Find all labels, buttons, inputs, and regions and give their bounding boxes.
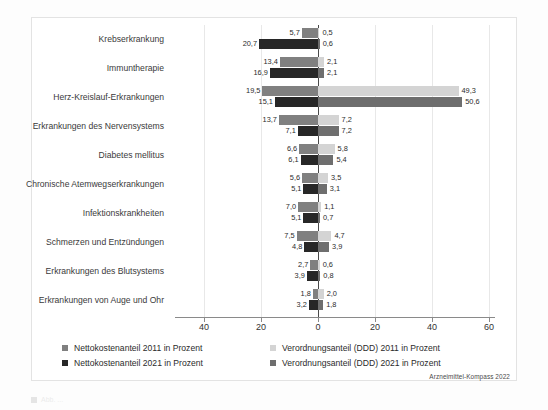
- value-label-right-2021: 7,2: [342, 126, 352, 136]
- bar-right-2011: [318, 57, 324, 67]
- bar-left-2021: [303, 213, 318, 223]
- chart-row: Chronische Atemwegserkrankungen5,65,13,5…: [175, 170, 495, 199]
- axis-tick-label: 40: [427, 322, 437, 332]
- legend-swatch-icon: [62, 345, 68, 351]
- bar-right-2021: [318, 242, 329, 252]
- value-label-left-2021: 5,1: [291, 184, 301, 194]
- value-label-left-2011: 5,6: [290, 173, 300, 183]
- value-label-right-2011: 3,5: [331, 173, 341, 183]
- bar-right-2011: [318, 144, 335, 154]
- bar-left-2021: [270, 68, 318, 78]
- value-label-right-2021: 50,6: [465, 97, 479, 107]
- chart-row: Erkrankungen des Blutsystems2,73,90,60,8: [175, 257, 495, 286]
- value-label-right-2011: 49,3: [462, 86, 476, 96]
- value-label-left-2021: 7,1: [285, 126, 295, 136]
- value-label-right-2011: 7,2: [342, 115, 352, 125]
- source-note: Arzneimittel-Kompass 2022: [429, 373, 510, 380]
- value-label-right-2021: 5,4: [336, 155, 346, 165]
- value-label-right-2021: 0,6: [323, 39, 333, 49]
- axis-tick-label: 20: [256, 322, 266, 332]
- value-label-left-2011: 7,0: [286, 202, 296, 212]
- value-label-right-2011: 4,7: [334, 231, 344, 241]
- value-label-left-2011: 5,7: [289, 28, 299, 38]
- chart-page: Krebserkrankung5,720,70,50,6Immuntherapi…: [0, 0, 548, 410]
- legend-label: Nettokostenanteil 2021 in Prozent: [74, 358, 203, 368]
- value-label-left-2011: 19,5: [246, 86, 260, 96]
- bar-left-2011: [302, 173, 318, 183]
- legend-label: Nettokostenanteil 2011 in Prozent: [74, 343, 202, 353]
- legend-column-right: Verordnungsanteil (DDD) 2011 in ProzentV…: [270, 340, 441, 370]
- bar-left-2011: [279, 115, 318, 125]
- value-label-left-2021: 3,9: [295, 271, 305, 281]
- legend-item[interactable]: Verordnungsanteil (DDD) 2011 in Prozent: [270, 340, 441, 355]
- bar-left-2011: [302, 28, 318, 38]
- value-label-left-2021: 5,1: [291, 213, 301, 223]
- bar-left-2011: [297, 231, 318, 241]
- category-label: Chronische Atemwegserkrankungen: [0, 170, 164, 199]
- legend-swatch-icon: [270, 345, 276, 351]
- bar-right-2021: [318, 155, 333, 165]
- bar-right-2011: [318, 28, 319, 38]
- chart-row: Erkrankungen des Nervensystems13,77,17,2…: [175, 112, 495, 141]
- value-label-right-2021: 0,8: [323, 271, 333, 281]
- axis-tick-label: 0: [315, 322, 320, 332]
- bar-right-2021: [318, 68, 324, 78]
- axis-tick-label: 20: [370, 322, 380, 332]
- bar-left-2021: [307, 271, 318, 281]
- value-label-left-2011: 13,4: [263, 57, 277, 67]
- bar-right-2011: [318, 260, 320, 270]
- bar-right-2011: [318, 231, 331, 241]
- legend-swatch-icon: [62, 360, 68, 366]
- value-label-left-2011: 1,8: [301, 289, 311, 299]
- axis-tick-label: 60: [484, 322, 494, 332]
- bar-right-2021: [318, 39, 320, 49]
- value-label-right-2021: 1,8: [326, 300, 336, 310]
- bar-right-2021: [318, 184, 327, 194]
- value-label-right-2011: 1,1: [324, 202, 334, 212]
- chart-row: Krebserkrankung5,720,70,50,6: [175, 25, 495, 54]
- value-label-left-2021: 20,7: [243, 39, 257, 49]
- legend-item[interactable]: Verordnungsanteil (DDD) 2021 in Prozent: [270, 355, 441, 370]
- value-label-right-2011: 2,1: [327, 57, 337, 67]
- category-label: Herz-Kreislauf-Erkrankungen: [0, 83, 164, 112]
- bar-left-2021: [309, 300, 318, 310]
- category-label: Schmerzen und Entzündungen: [0, 228, 164, 257]
- value-label-left-2021: 16,9: [253, 68, 267, 78]
- bar-left-2021: [259, 39, 318, 49]
- bar-right-2011: [318, 86, 459, 96]
- legend-swatch-icon: [270, 360, 276, 366]
- legend-column-left: Nettokostenanteil 2011 in ProzentNettoko…: [62, 340, 203, 370]
- value-label-left-2021: 4,8: [292, 242, 302, 252]
- category-label: Diabetes mellitus: [0, 141, 164, 170]
- caption-strip: Abb. ...: [31, 396, 151, 404]
- bar-rows: Krebserkrankung5,720,70,50,6Immuntherapi…: [175, 25, 495, 315]
- bar-right-2021: [318, 300, 323, 310]
- axis-tick-label: 40: [199, 322, 209, 332]
- bar-right-2021: [318, 213, 320, 223]
- legend-item[interactable]: Nettokostenanteil 2011 in Prozent: [62, 340, 203, 355]
- value-label-left-2011: 13,7: [263, 115, 277, 125]
- bar-left-2021: [304, 242, 318, 252]
- legend-item[interactable]: Nettokostenanteil 2021 in Prozent: [62, 355, 203, 370]
- bar-right-2011: [318, 115, 339, 125]
- category-label: Immuntherapie: [0, 54, 164, 83]
- bar-right-2011: [318, 289, 324, 299]
- category-label: Infektionskrankheiten: [0, 199, 164, 228]
- plot-area: Krebserkrankung5,720,70,50,6Immuntherapi…: [175, 25, 495, 315]
- value-label-right-2011: 5,8: [338, 144, 348, 154]
- chart-row: Diabetes mellitus6,66,15,85,4: [175, 141, 495, 170]
- bar-left-2021: [298, 126, 318, 136]
- value-label-right-2021: 2,1: [327, 68, 337, 78]
- category-label: Krebserkrankung: [0, 25, 164, 54]
- legend-label: Verordnungsanteil (DDD) 2011 in Prozent: [282, 343, 440, 353]
- value-label-right-2021: 0,7: [323, 213, 333, 223]
- value-label-left-2021: 6,1: [288, 155, 298, 165]
- value-label-right-2011: 0,5: [322, 28, 332, 38]
- category-label: Erkrankungen des Nervensystems: [0, 112, 164, 141]
- value-label-right-2021: 3,1: [330, 184, 340, 194]
- x-axis-line: [175, 317, 495, 318]
- chart-row: Infektionskrankheiten7,05,11,10,7: [175, 199, 495, 228]
- bar-right-2011: [318, 202, 321, 212]
- caption-text: Abb. ...: [41, 396, 63, 403]
- chart-row: Immuntherapie13,416,92,12,1: [175, 54, 495, 83]
